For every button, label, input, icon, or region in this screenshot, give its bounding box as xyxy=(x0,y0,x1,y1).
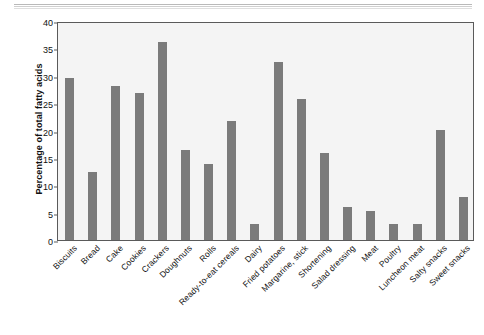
y-axis-tick-mark xyxy=(54,159,58,160)
y-axis-tick-mark xyxy=(54,105,58,106)
bar xyxy=(227,121,236,240)
y-axis-tick-label: 20 xyxy=(43,128,53,138)
bar xyxy=(181,150,190,240)
y-axis-tick-mark xyxy=(54,77,58,78)
bar xyxy=(158,42,167,240)
bar xyxy=(65,78,74,240)
x-axis-labels: BiscuitsBreadCakeCookiesCrackersDoughnut… xyxy=(57,243,474,335)
y-axis-tick-label: 0 xyxy=(48,237,53,247)
y-axis-tick-mark xyxy=(54,187,58,188)
bar xyxy=(436,130,445,240)
top-divider-rule xyxy=(14,4,472,9)
y-axis-tick-label: 30 xyxy=(43,73,53,83)
y-axis-tick-label: 40 xyxy=(43,18,53,28)
bar xyxy=(297,99,306,240)
y-axis-tick-label: 10 xyxy=(43,182,53,192)
y-axis-tick-label: 25 xyxy=(43,100,53,110)
y-axis-tick-mark xyxy=(54,23,58,24)
y-axis-tick-mark xyxy=(54,132,58,133)
bar xyxy=(250,224,259,240)
bar xyxy=(366,211,375,240)
bar xyxy=(111,86,120,240)
y-axis-tick-label: 35 xyxy=(43,45,53,55)
bar xyxy=(413,224,422,240)
bar xyxy=(459,197,468,240)
bar xyxy=(88,172,97,240)
y-axis-tick-mark xyxy=(54,50,58,51)
y-axis-tick-label: 5 xyxy=(48,210,53,220)
bar xyxy=(135,93,144,240)
y-axis-tick-label: 15 xyxy=(43,155,53,165)
chart-page: Percentage of total fatty acids 05101520… xyxy=(0,0,484,335)
y-axis-tick-mark xyxy=(54,214,58,215)
bar xyxy=(389,224,398,240)
x-axis-tick-label: Bread xyxy=(78,243,101,266)
plot-area: 0510152025303540 xyxy=(57,22,474,241)
bar xyxy=(274,62,283,240)
bar xyxy=(204,164,213,240)
bar xyxy=(343,207,352,240)
x-axis-tick-label: Biscuits xyxy=(50,243,78,271)
bar xyxy=(320,153,329,240)
